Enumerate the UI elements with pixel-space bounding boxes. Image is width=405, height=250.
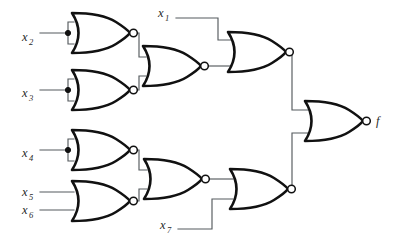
input-label-x7: x 7 [159,218,172,235]
nor-gate-upper-x1[interactable] [228,32,293,72]
input-label-x7-sub: 7 [167,225,172,235]
input-label-x7-base: x [159,218,166,232]
inversion-bubble-g7 [286,48,294,56]
inversion-bubble-g6 [202,175,210,183]
inversion-bubble-g8 [288,185,296,193]
inversion-bubble-g9 [363,117,371,125]
input-label-x2-sub: 2 [29,37,34,47]
nor-gate-x3[interactable] [72,70,137,110]
input-label-x5-base: x [21,185,28,199]
nor-gate-x5-x6[interactable] [72,181,137,221]
input-label-x4: x 4 [21,146,34,163]
input-label-x5-sub: 5 [29,192,33,202]
input-label-x6-sub: 6 [29,210,34,220]
output-label-f: f [376,114,381,128]
input-label-x1-sub: 1 [165,13,169,23]
input-label-x1: x 1 [157,6,169,23]
junction-dot-x4 [65,147,70,152]
inversion-bubble-g5 [201,62,209,70]
input-label-x2-base: x [21,30,28,44]
wire-x1-to-g7 [176,18,231,40]
gate-layer [72,13,370,221]
nor-gate-mid-upper[interactable] [143,46,208,86]
nor-gate-x2[interactable] [72,13,137,53]
nor-gate-lower-x7[interactable] [230,169,295,209]
nor-gate-output[interactable] [305,101,370,141]
inversion-bubble-g3 [130,146,138,154]
input-label-x6-base: x [21,203,28,217]
input-label-x6: x 6 [21,203,34,220]
junction-layer [65,30,70,152]
input-label-x3: x 3 [21,86,33,103]
logic-circuit-diagram: x 1 x 2 x 3 x 4 x 5 x 6 x 7 f [0,0,405,250]
circuit-canvas: x 1 x 2 x 3 x 4 x 5 x 6 x 7 f [0,0,405,250]
input-label-x4-sub: 4 [29,153,34,163]
wire-x7-to-g8 [178,199,233,229]
junction-dot-x3 [65,87,70,92]
input-label-x5: x 5 [21,185,33,202]
nor-gate-x4[interactable] [72,130,137,170]
input-label-x2: x 2 [21,30,34,47]
junction-dot-x2 [65,30,70,35]
input-label-x3-base: x [21,86,28,100]
input-label-x1-base: x [157,6,164,20]
input-label-x3-sub: 3 [28,93,33,103]
inversion-bubble-g1 [130,29,138,37]
inversion-bubble-g2 [130,86,138,94]
inversion-bubble-g4 [130,197,138,205]
nor-gate-mid-lower[interactable] [144,159,209,199]
output-label-f-base: f [376,114,381,128]
input-label-x4-base: x [21,146,28,160]
